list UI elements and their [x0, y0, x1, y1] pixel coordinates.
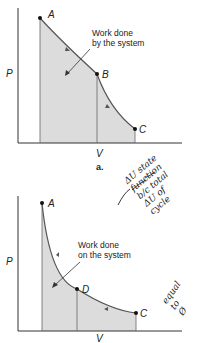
diagram-b — [18, 196, 182, 331]
y-axis-label-b: P — [6, 257, 13, 267]
caption-a: a. — [96, 163, 104, 172]
x-axis-label-a: V — [96, 149, 103, 159]
annotation-b-line2: on the system — [78, 251, 131, 261]
work-annotation-b: Work done on the system — [78, 241, 131, 260]
x-axis-label-b: V — [96, 334, 103, 343]
y-axis-label-a: P — [6, 69, 13, 79]
point-c-label-b: C — [140, 309, 147, 319]
annotation-a-line2: by the system — [92, 39, 144, 49]
arrow-da-icon — [56, 252, 59, 257]
work-annotation-a: Work done by the system — [92, 29, 144, 48]
point-c-label-a: C — [139, 125, 146, 135]
point-d-label: D — [82, 285, 89, 295]
point-a-label-b: A — [48, 199, 55, 209]
point-b-label: B — [102, 70, 109, 80]
point-a-label-a: A — [48, 10, 55, 20]
